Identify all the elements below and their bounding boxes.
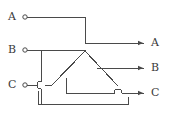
input-label-b: B (8, 44, 16, 55)
circuit-diagram: A B C A B C (0, 0, 170, 123)
input-label-c: C (8, 79, 16, 90)
hop-c-out-over-riser-icon (114, 89, 122, 93)
wire-c-after-hop (45, 85, 51, 86)
hop-c-over-b-branch-icon (37, 81, 41, 89)
output-label-b: B (151, 62, 159, 73)
terminal-input-c[interactable] (23, 83, 27, 87)
terminal-input-b[interactable] (23, 48, 27, 52)
wire-u-routing (66, 78, 114, 93)
terminal-input-a[interactable] (23, 15, 27, 19)
output-label-c: C (151, 87, 159, 98)
input-label-a: A (8, 11, 16, 22)
wire-diagonal-down-left (51, 51, 85, 86)
wire-input-a-to-output-a (27, 17, 143, 43)
output-label-a: A (151, 37, 159, 48)
wiring-svg (0, 0, 170, 123)
